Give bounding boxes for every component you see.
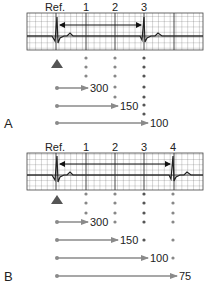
panel-b-reference-triangle [51, 195, 63, 204]
diagram-canvas [0, 0, 210, 289]
panel-a-value-150: 150 [120, 101, 138, 112]
panel-b-ecg-strip [27, 153, 203, 190]
panel-b-value-150: 150 [120, 235, 138, 246]
panel-b-label: B [4, 270, 13, 283]
panel-b-scale-arrows [55, 220, 177, 278]
panel-a-value-300: 300 [90, 83, 108, 94]
panel-a-label: A [4, 117, 13, 130]
panel-b-value-100: 100 [150, 253, 168, 264]
panel-b-value-300: 300 [90, 217, 108, 228]
panel-b-value-75: 75 [179, 271, 191, 282]
panel-a-value-100: 100 [150, 118, 168, 129]
panel-a-ecg-strip [27, 13, 203, 50]
panel-a-reference-triangle [51, 59, 63, 68]
